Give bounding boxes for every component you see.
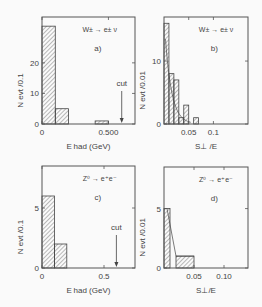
x-tick-label: 0.05 [181, 128, 197, 137]
y-axis-label: N evt /0.01 [138, 218, 147, 257]
x-tick-label: 0 [40, 272, 45, 281]
panel-c: 0500.5E had (GeV)N evt /0.1Z⁰ → e⁺e⁻c)cu… [16, 166, 135, 295]
x-tick-label: 0.500 [98, 128, 119, 137]
cut-label: cut [111, 223, 122, 232]
x-tick-label: 0 [40, 128, 45, 137]
histogram-bar [55, 109, 68, 124]
x-axis-label: E had (GeV) [67, 286, 111, 295]
x-axis-label: S⊥/E [196, 286, 216, 295]
panel-label: a) [94, 44, 101, 53]
histogram-bar [194, 118, 199, 124]
process-title: W± → e± ν [199, 26, 234, 33]
panel-label: c) [94, 193, 101, 202]
y-tick-label: 0 [157, 120, 162, 129]
y-axis-label: N evt /0.01 [138, 71, 147, 110]
histogram-bar [42, 26, 55, 124]
y-tick-label: 10 [152, 57, 161, 66]
panel-a: 0102000.500E had (GeV)N evt /0.1W± → e± … [16, 17, 135, 151]
figure: 0102000.500E had (GeV)N evt /0.1W± → e± … [0, 0, 262, 307]
panel-d: 050.050.10S⊥/EN evt /0.01Z⁰ → e⁺e⁻d) [138, 167, 248, 295]
y-axis-label: N evt /0.1 [16, 219, 25, 254]
y-tick-label: 5 [35, 204, 40, 213]
histogram-bar [164, 23, 169, 124]
x-tick-label: 0.5 [98, 272, 110, 281]
cut-label: cut [116, 79, 127, 88]
panel-label: b) [211, 44, 218, 53]
process-title: Z⁰ → e⁺e⁻ [199, 176, 233, 183]
histogram-bar [42, 196, 54, 268]
plot-frame [42, 17, 135, 124]
fit-curve [167, 209, 194, 257]
y-tick-label: 5 [157, 205, 162, 214]
process-title: Z⁰ → e⁺e⁻ [83, 175, 117, 182]
y-axis-label: N evt /0.1 [16, 73, 25, 108]
histogram-bar [176, 256, 194, 268]
process-title: W± → e± ν [82, 26, 117, 33]
y-tick-label: 10 [30, 89, 39, 98]
y-tick-label: 0 [157, 264, 162, 273]
histogram-bar [174, 80, 179, 124]
histogram-bar [54, 244, 66, 268]
histogram-bar [164, 209, 170, 268]
x-tick-label: 0.05 [186, 272, 202, 281]
x-tick-label: 0.1 [208, 128, 220, 137]
panel-b: 0100.050.1S⊥ /EN evt /0.01W± → e± νb) [138, 17, 248, 151]
y-tick-label: 20 [30, 59, 39, 68]
x-tick-label: 0.10 [216, 272, 232, 281]
x-axis-label: E had (GeV) [67, 142, 111, 151]
x-axis-label: S⊥ /E [195, 142, 217, 151]
panel-label: d) [211, 194, 218, 203]
